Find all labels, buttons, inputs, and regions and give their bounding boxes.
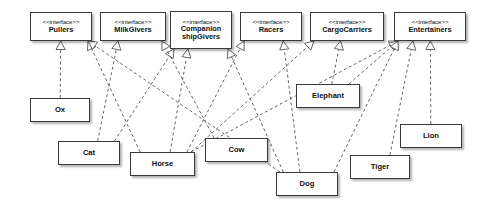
realization-edge-horse-to-pullers (92, 49, 141, 152)
realization-arrowhead-entertainers (407, 41, 416, 50)
realization-edge-elephant-to-cargocarriers (332, 49, 339, 84)
interface-box-pullers[interactable]: <<interface>>Pullers (30, 12, 92, 41)
realization-arrowhead-entertainers (426, 41, 435, 50)
interface-name-line: shipGivers (182, 33, 220, 41)
realization-arrowhead-milkgivers (112, 41, 121, 50)
interface-box-milkgivers[interactable]: <<interface>>MilkGivers (100, 12, 166, 41)
class-name-label: Cat (83, 149, 95, 157)
class-box-horse[interactable]: Horse (130, 152, 195, 176)
realization-arrowhead-pullers (56, 41, 65, 50)
interface-box-companionship[interactable]: <<interface>>CompanionshipGivers (170, 11, 232, 49)
realization-arrowhead-cargocarriers (334, 41, 343, 50)
realization-arrowhead-racers (236, 41, 244, 51)
class-box-lion[interactable]: Lion (400, 124, 462, 148)
class-name-label: Elephant (312, 92, 344, 100)
realization-arrowhead-companionship (166, 49, 174, 59)
realization-edge-dog-to-entertainers (334, 49, 394, 172)
interface-name-line: Entertainers (408, 26, 451, 34)
class-box-dog[interactable]: Dog (276, 172, 338, 196)
class-box-cow[interactable]: Cow (205, 138, 268, 162)
class-box-cat[interactable]: Cat (58, 141, 120, 165)
realization-edge-elephant-to-entertainers (349, 47, 392, 84)
realization-edge-horse-to-cargocarriers (191, 47, 308, 152)
interface-name-line: MilkGivers (114, 26, 151, 34)
realization-edge-cow-to-milkgivers (166, 48, 214, 138)
interface-box-cargocarriers[interactable]: <<interface>>CargoCarriers (310, 12, 384, 41)
class-box-elephant[interactable]: Elephant (296, 84, 360, 108)
realization-arrowhead-racers (280, 41, 289, 50)
uml-class-diagram: <<interface>>Pullers<<interface>>MilkGiv… (0, 0, 489, 220)
interface-name-line: CargoCarriers (322, 26, 372, 34)
interface-name-line: Pullers (49, 26, 74, 34)
class-name-label: Cow (228, 146, 244, 154)
class-box-tiger[interactable]: Tiger (350, 155, 410, 179)
interface-box-entertainers[interactable]: <<interface>>Entertainers (394, 12, 466, 41)
class-name-label: Lion (423, 132, 439, 140)
interface-name-line: Racers (259, 26, 284, 34)
realization-edge-dog-to-racers (284, 49, 300, 172)
class-name-label: Ox (55, 106, 65, 114)
class-name-label: Tiger (371, 163, 389, 171)
realization-edge-cat-to-companionship (115, 56, 170, 141)
realization-arrowhead-companionship (182, 49, 191, 58)
class-name-label: Dog (300, 180, 315, 188)
realization-arrowhead-companionship (227, 49, 235, 59)
realization-arrowhead-cargocarriers (305, 41, 314, 50)
interface-box-racers[interactable]: <<interface>>Racers (240, 12, 302, 41)
class-name-label: Horse (152, 160, 174, 168)
class-box-ox[interactable]: Ox (30, 98, 90, 122)
